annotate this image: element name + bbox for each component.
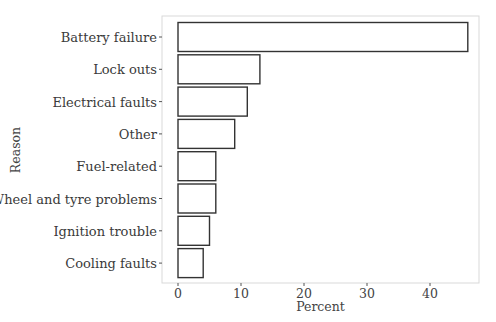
x-tick-label: 40 (422, 286, 438, 301)
bar (178, 119, 235, 148)
category-label: Wheel and tyre problems (0, 191, 157, 206)
x-tick-label: 0 (174, 286, 182, 301)
category-label: Other (119, 126, 157, 141)
x-tick-label: 10 (233, 286, 249, 301)
category-label: Fuel-related (76, 159, 157, 174)
bar (178, 87, 247, 116)
category-label: Lock outs (93, 62, 157, 77)
x-tick-label: 30 (359, 286, 375, 301)
bar (178, 23, 468, 52)
y-axis-title: Reason (8, 127, 23, 173)
bar-chart: Battery failureLock outsElectrical fault… (0, 0, 496, 322)
category-label: Electrical faults (52, 94, 157, 109)
bar (178, 55, 260, 84)
bar (178, 249, 203, 278)
bar (178, 184, 216, 213)
category-label: Ignition trouble (53, 223, 157, 238)
bar (178, 152, 216, 181)
category-label: Battery failure (61, 30, 157, 45)
bar (178, 216, 210, 245)
x-axis-title: Percent (296, 299, 345, 314)
category-label: Cooling faults (65, 256, 157, 271)
chart-canvas (0, 0, 496, 322)
